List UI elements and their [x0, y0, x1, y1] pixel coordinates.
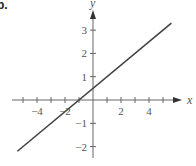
y-axis-label: y [89, 0, 96, 10]
y-tick-label: −2 [75, 141, 87, 153]
y-axis-arrow-icon [90, 10, 96, 19]
y-tick-label: 1 [82, 71, 88, 83]
line-graph: b. xy −4−224321−1−2 [0, 0, 196, 166]
part-label: b. [0, 0, 8, 12]
x-tick-label: 4 [146, 105, 152, 117]
tick-labels: −4−224321−1−2 [31, 24, 152, 153]
y-tick-label: 3 [82, 24, 88, 36]
y-tick-label: −1 [75, 117, 87, 129]
y-tick-label: 2 [82, 47, 88, 59]
data-line [17, 23, 171, 151]
x-axis-arrow-icon [173, 97, 182, 103]
x-tick-label: −4 [31, 105, 43, 117]
axes: xy [12, 0, 193, 158]
x-tick-label: 2 [118, 105, 124, 117]
data-series [17, 23, 171, 151]
x-axis-label: x [186, 93, 193, 107]
